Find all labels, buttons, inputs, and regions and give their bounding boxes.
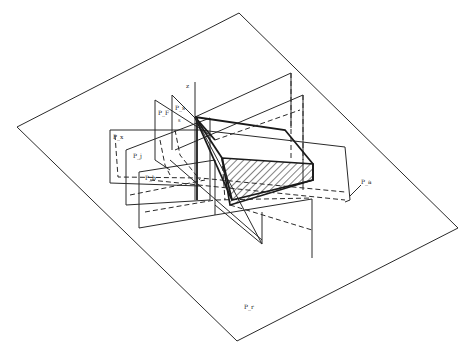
diagram-canvas: z P_F P_s s P_x P_j P_b P_a P_r (0, 0, 475, 357)
label-pb: P_b (145, 174, 156, 182)
label-pj: P_j (133, 152, 142, 160)
label-px: P_x (113, 133, 124, 141)
label-s: s (178, 117, 181, 123)
back-plane-upper (195, 73, 291, 160)
label-ps: P_s (175, 104, 185, 112)
pa-leader (350, 185, 361, 196)
label-pa: P_a (361, 178, 372, 186)
label-z: z (186, 82, 189, 89)
label-pf: P_F (158, 109, 169, 117)
label-pr: P_r (244, 303, 254, 311)
